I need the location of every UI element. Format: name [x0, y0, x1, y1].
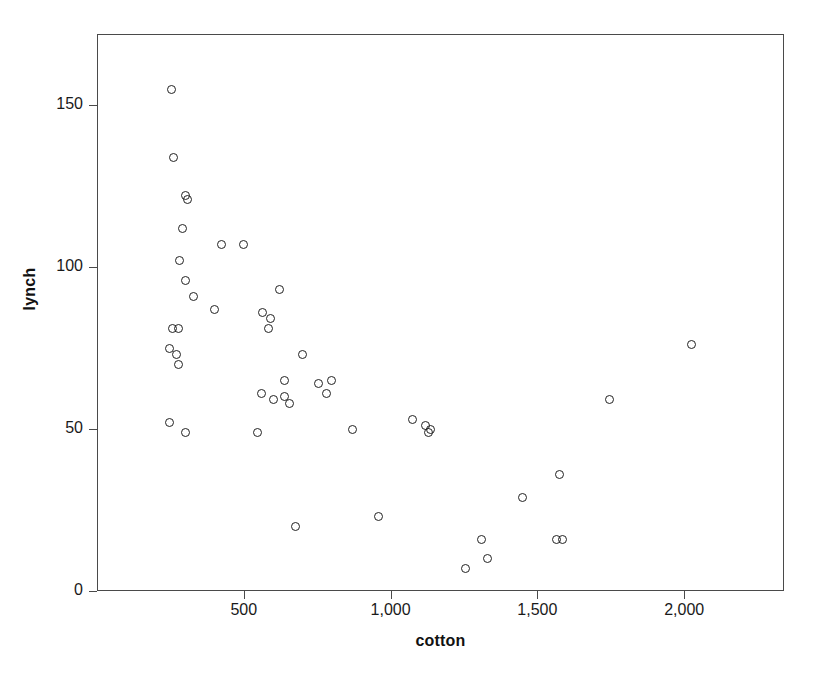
- y-tick-label: 150: [23, 95, 83, 115]
- x-tick-label-text: 2,000: [664, 601, 704, 618]
- plot-frame: [97, 34, 784, 591]
- x-tick-label-text: 1,500: [517, 601, 557, 618]
- scatter-plot-figure: 050100150 5001,0001,5002,000 cotton lync…: [0, 0, 815, 677]
- y-axis-tick: [89, 105, 97, 106]
- x-tick-label: 1,000: [346, 601, 436, 619]
- y-tick-label-text: 150: [23, 95, 83, 113]
- x-tick-label-text: 1,000: [371, 601, 411, 618]
- x-axis-tick: [684, 591, 685, 599]
- y-tick-label: 50: [23, 419, 83, 439]
- x-axis-tick: [391, 591, 392, 599]
- y-tick-label: 0: [23, 581, 83, 601]
- x-tick-label: 2,000: [639, 601, 729, 619]
- x-axis-title: cotton: [97, 632, 784, 650]
- y-axis-tick: [89, 591, 97, 592]
- x-axis-tick: [244, 591, 245, 599]
- x-axis-tick: [537, 591, 538, 599]
- x-tick-label: 500: [199, 601, 289, 619]
- y-axis-tick: [89, 267, 97, 268]
- x-tick-label: 1,500: [492, 601, 582, 619]
- y-tick-label-text: 50: [23, 419, 83, 437]
- y-axis-title: lynch: [21, 199, 39, 379]
- x-tick-label-text: 500: [230, 601, 257, 618]
- y-tick-label-text: 0: [23, 581, 83, 599]
- y-axis-tick: [89, 429, 97, 430]
